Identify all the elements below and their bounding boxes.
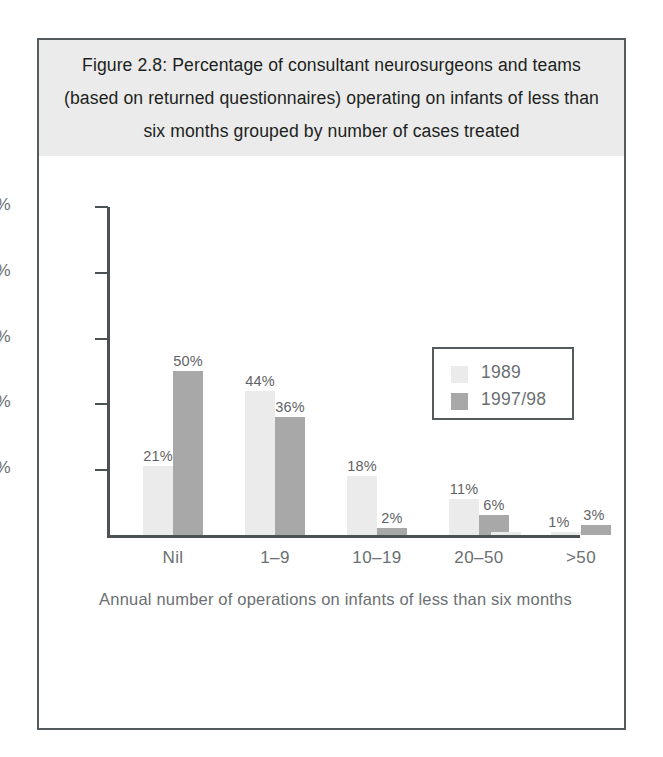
legend-label-1997-98: 1997/98 <box>481 389 546 410</box>
y-axis-label-20: 20% <box>0 458 11 478</box>
bar-1989-10-19 <box>347 476 377 535</box>
value-label-1989-gt50: 1% <box>544 514 574 530</box>
value-label-1997-gt50: 3% <box>579 507 609 523</box>
x-axis-label-20-50: 20–50 <box>449 548 509 568</box>
bar-1989-20-50 <box>449 499 479 535</box>
figure-title-band: Figure 2.8: Percentage of consultant neu… <box>39 40 624 156</box>
x-axis-label-10-19: 10–19 <box>347 548 407 568</box>
bars-layer <box>39 156 624 535</box>
value-label-1989-nil: 21% <box>143 448 173 464</box>
x-axis-label-nil: Nil <box>143 548 203 568</box>
bar-1989-gt50 <box>551 532 581 535</box>
x-axis-line <box>107 535 580 538</box>
bar-1989-1-9 <box>245 391 275 535</box>
x-axis-label-1-9: 1–9 <box>245 548 305 568</box>
y-axis-label-80: 80% <box>0 261 11 281</box>
value-label-1989-20-50: 11% <box>449 481 479 497</box>
legend-swatch-1989 <box>451 366 468 383</box>
x-axis-caption: Annual number of operations on infants o… <box>79 584 592 614</box>
value-label-1997-1-9: 36% <box>275 399 305 415</box>
bar-1997-gt50 <box>581 525 611 535</box>
bar-1989-nil <box>143 466 173 535</box>
bar-1989-gt50-spacer <box>491 532 521 535</box>
figure-container: Figure 2.8: Percentage of consultant neu… <box>37 38 626 730</box>
bar-1997-nil <box>173 371 203 535</box>
y-axis-label-100: 100% <box>0 195 11 215</box>
value-label-1997-nil: 50% <box>173 353 203 369</box>
legend-swatch-1997-98 <box>451 393 468 410</box>
x-axis-label-gt50: >50 <box>551 548 611 568</box>
bar-1997-10-19 <box>377 528 407 535</box>
y-axis-label-60: 60% <box>0 327 11 347</box>
value-label-1989-10-19: 18% <box>347 458 377 474</box>
value-label-1997-20-50: 6% <box>479 497 509 513</box>
page-title: Figure 2.8: Percentage of consultant neu… <box>61 49 602 148</box>
chart-legend: 1989 1997/98 <box>432 347 574 420</box>
bar-1997-1-9 <box>275 417 305 535</box>
chart-plot-area: 100% 80% 60% 40% 20% 21% 50% 44% 36% <box>39 156 624 728</box>
value-label-1997-10-19: 2% <box>377 510 407 526</box>
legend-label-1989: 1989 <box>481 362 521 383</box>
value-label-1989-1-9: 44% <box>245 373 275 389</box>
y-axis-label-40: 40% <box>0 392 11 412</box>
